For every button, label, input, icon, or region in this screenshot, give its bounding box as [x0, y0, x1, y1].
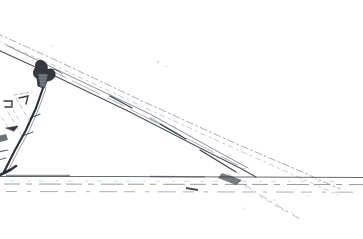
speckle — [157, 61, 159, 63]
speckle — [51, 45, 52, 46]
sketch-canvas: Street lamp with overhead wires lamp hea… — [0, 0, 363, 239]
paper-background — [0, 0, 363, 239]
speckle — [243, 207, 244, 208]
sketch-illustration — [0, 0, 363, 239]
speckle — [291, 211, 292, 212]
speckle — [273, 199, 274, 200]
speckle — [165, 65, 166, 66]
speckle — [308, 196, 309, 197]
